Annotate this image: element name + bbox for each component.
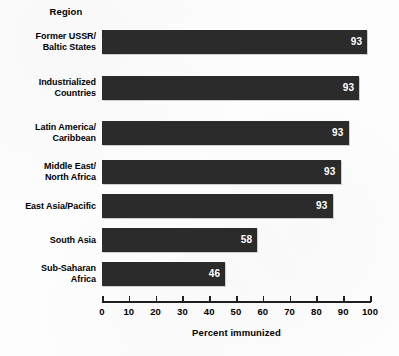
bar-row-label-line1: Sub-Saharan <box>8 263 96 274</box>
bar-value-label: 93 <box>332 121 344 145</box>
bar-row: East Asia/Pacific93 <box>0 194 399 218</box>
bar-row-label-line1: East Asia/Pacific <box>8 201 96 212</box>
bar-value-label: 58 <box>241 228 253 252</box>
bar: 93 <box>102 30 367 54</box>
x-axis-tick <box>236 296 238 302</box>
x-axis-tick <box>263 296 265 302</box>
x-axis-tick <box>290 296 292 302</box>
bar-row-label-line2: Countries <box>8 88 96 99</box>
bar-row-label-line2: North Africa <box>8 172 96 183</box>
bar: 93 <box>102 121 349 145</box>
bar: 93 <box>102 194 333 218</box>
bar-row-label: Latin America/Caribbean <box>8 122 96 143</box>
bar: 46 <box>102 262 225 286</box>
bar: 93 <box>102 160 341 184</box>
bar-row-label: South Asia <box>8 235 96 246</box>
bar-row-label-line1: South Asia <box>8 235 96 246</box>
x-axis-tick <box>370 296 372 302</box>
bar-row-label: Sub-SaharanAfrica <box>8 263 96 284</box>
bar-row-label-line2: Africa <box>8 274 96 285</box>
bar-value-label: 46 <box>209 262 221 286</box>
bar-row-label-line1: Industrialized <box>8 77 96 88</box>
bar-row-label: Middle East/North Africa <box>8 161 96 182</box>
bar-row: Middle East/North Africa93 <box>0 160 399 184</box>
x-axis-tick <box>343 296 345 302</box>
bar-row-label: Former USSR/Baltic States <box>8 31 96 52</box>
bar-row: IndustrializedCountries93 <box>0 76 399 100</box>
bar-row: Former USSR/Baltic States93 <box>0 30 399 54</box>
x-axis-tick <box>209 296 211 302</box>
bar: 58 <box>102 228 257 252</box>
bar-value-label: 93 <box>316 194 328 218</box>
bar-row-label-line2: Baltic States <box>8 42 96 53</box>
bar-row: Sub-SaharanAfrica46 <box>0 262 399 286</box>
bar-row: Latin America/Caribbean93 <box>0 121 399 145</box>
bar-value-label: 93 <box>343 76 355 100</box>
x-axis-tick <box>316 296 318 302</box>
x-axis-tick <box>156 296 158 302</box>
x-axis-tick <box>102 296 104 302</box>
bar-value-label: 93 <box>324 160 336 184</box>
bar-row-label: IndustrializedCountries <box>8 77 96 98</box>
region-axis-header: Region <box>30 6 102 17</box>
x-axis-tick <box>129 296 131 302</box>
x-axis-title: Percent immunized <box>102 327 371 338</box>
bar-row-label-line1: Latin America/ <box>8 122 96 133</box>
x-axis-tick-label: 100 <box>350 306 390 317</box>
immunization-bar-chart: Region Former USSR/Baltic States93Indust… <box>0 0 399 356</box>
clipped-chart-title <box>14 0 386 2</box>
bar-row-label-line1: Former USSR/ <box>8 31 96 42</box>
bar-row-label-line1: Middle East/ <box>8 161 96 172</box>
bar-row-label: East Asia/Pacific <box>8 201 96 212</box>
bar: 93 <box>102 76 359 100</box>
bar-value-label: 93 <box>351 30 363 54</box>
bar-row: South Asia58 <box>0 228 399 252</box>
bar-row-label-line2: Caribbean <box>8 133 96 144</box>
x-axis-tick <box>182 296 184 302</box>
